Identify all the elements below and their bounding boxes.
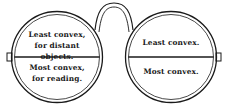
left-lower-label: Most convex, for reading. — [17, 62, 97, 84]
left-lower-line-2: for reading. — [17, 73, 97, 84]
right-lower-label: Most convex. — [131, 66, 211, 77]
left-upper-label: Least convex, for distant objects. — [17, 29, 97, 62]
bridge-inner — [99, 7, 129, 32]
left-lower-line-1: Most convex, — [17, 62, 97, 73]
left-upper-line-2: for distant objects. — [17, 40, 97, 62]
right-upper-line-1: Least convex. — [131, 37, 211, 48]
right-upper-label: Least convex. — [131, 37, 211, 48]
left-upper-line-1: Least convex, — [17, 29, 97, 40]
right-lower-line-1: Most convex. — [131, 66, 211, 77]
